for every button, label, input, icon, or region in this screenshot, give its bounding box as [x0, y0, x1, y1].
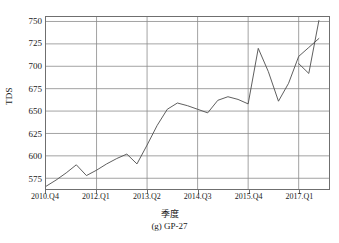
x-axis-tick-label: 2013.Q2: [133, 192, 161, 201]
x-axis-tick-label: 2010.Q4: [31, 192, 59, 201]
x-axis-tick-label: 2012.Q1: [82, 192, 110, 201]
x-axis-title: 季度: [0, 207, 339, 220]
x-axis-tick-label: 2017.Q1: [286, 192, 314, 201]
figure-caption: (g) GP-27: [0, 221, 339, 231]
x-axis-tick-label: 2014.Q3: [184, 192, 212, 201]
x-axis-tick-label: 2015.Q4: [235, 192, 263, 201]
chart-figure: TDS 575600625650675700725750 2010.Q42012…: [0, 0, 339, 243]
